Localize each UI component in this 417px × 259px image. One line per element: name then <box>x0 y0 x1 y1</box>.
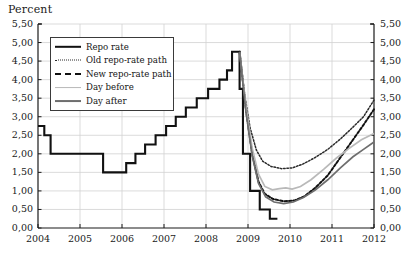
y-axis-tick-label: 1,50 <box>12 166 33 177</box>
legend-item-day-after: Day after <box>51 94 173 108</box>
legend-swatch-icon <box>55 42 81 51</box>
legend-item-repo-rate: Repo rate <box>51 40 173 54</box>
x-axis-tick-label: 2008 <box>186 233 226 244</box>
legend-item-label: Old repo-rate path <box>86 56 167 65</box>
legend-item-label: Repo rate <box>86 43 129 52</box>
x-axis-tick-label: 2005 <box>60 233 100 244</box>
legend-swatch-icon <box>55 97 81 106</box>
y-axis-tick-label: 2,00 <box>380 148 401 159</box>
y-axis-tick-label: 2,50 <box>380 129 401 140</box>
series-line <box>240 52 374 169</box>
chart-legend: Repo rateOld repo-rate pathNew repo-rate… <box>50 37 174 111</box>
x-axis-tick-label: 2012 <box>354 233 394 244</box>
y-axis-tick-label: 0,50 <box>380 203 401 214</box>
x-axis-tick-label: 2004 <box>18 233 58 244</box>
y-axis-tick-label: 0,50 <box>12 203 33 214</box>
y-axis-tick-label: 4,00 <box>380 74 401 85</box>
x-axis-tick-label: 2011 <box>312 233 352 244</box>
y-axis-tick-label: 4,50 <box>12 55 33 66</box>
y-axis-tick-label: 1,00 <box>12 185 33 196</box>
x-axis-tick-label: 2009 <box>228 233 268 244</box>
y-axis-tick-label: 3,50 <box>380 92 401 103</box>
series-line <box>240 52 374 190</box>
legend-item-label: Day after <box>86 97 127 106</box>
y-axis-tick-label: 2,50 <box>12 129 33 140</box>
y-axis-tick-label: 0,00 <box>12 222 33 233</box>
legend-swatch-icon <box>55 69 81 78</box>
legend-item-label: Day before <box>86 83 134 92</box>
y-axis-tick-label: 5,00 <box>380 37 401 48</box>
legend-item-new-repo-rate-path: New repo-rate path <box>51 67 173 81</box>
y-axis-tick-label: 3,50 <box>12 92 33 103</box>
y-axis-tick-label: 5,50 <box>12 18 33 29</box>
y-axis-tick-label: 2,00 <box>12 148 33 159</box>
x-axis-tick-label: 2006 <box>102 233 142 244</box>
y-axis-tick-label: 1,50 <box>380 166 401 177</box>
x-axis-tick-label: 2007 <box>144 233 184 244</box>
legend-item-day-before: Day before <box>51 81 173 95</box>
legend-swatch-icon <box>55 56 81 65</box>
chart-figure: Percent Repo rateOld repo-rate pathNew r… <box>0 0 417 259</box>
legend-swatch-icon <box>55 83 81 92</box>
y-axis-tick-label: 3,00 <box>380 111 401 122</box>
y-axis-tick-label: 0,00 <box>380 222 401 233</box>
y-axis-tick-label: 3,00 <box>12 111 33 122</box>
y-axis-tick-label: 5,50 <box>380 18 401 29</box>
legend-item-label: New repo-rate path <box>86 70 172 79</box>
y-axis-tick-label: 1,00 <box>380 185 401 196</box>
y-axis-tick-label: 4,50 <box>380 55 401 66</box>
series-line <box>240 52 374 204</box>
x-axis-tick-label: 2010 <box>270 233 310 244</box>
legend-item-old-repo-rate-path: Old repo-rate path <box>51 54 173 68</box>
y-axis-tick-label: 5,00 <box>12 37 33 48</box>
y-axis-tick-label: 4,00 <box>12 74 33 85</box>
